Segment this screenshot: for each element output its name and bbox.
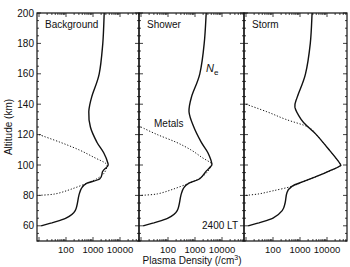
y-tick-label: 160 — [17, 68, 34, 79]
x-axis-label: Plasma Density (/cm3) — [143, 254, 242, 266]
panel-title: Shower — [147, 19, 182, 30]
panel-frame — [37, 13, 139, 241]
panel-title: Storm — [252, 19, 279, 30]
panel-storm: 100100010000Storm — [244, 13, 347, 255]
x-tick-label: 10000 — [209, 244, 235, 255]
panel-shower: 100100010000Shower — [139, 13, 244, 255]
chart-panels: 100100010000Background100100010000Shower… — [37, 13, 347, 255]
ne-curve — [41, 13, 108, 226]
x-tick-label: 1000 — [184, 244, 205, 255]
panel-title: Background — [45, 19, 98, 30]
x-tick-label: 1000 — [289, 244, 310, 255]
ne-curve — [248, 13, 341, 226]
x-tick-label: 100 — [160, 244, 176, 255]
x-tick-label: 100 — [58, 244, 74, 255]
y-axis-label: Altitude (km) — [3, 99, 14, 155]
y-tick-label: 120 — [17, 129, 34, 140]
x-tick-label: 10000 — [314, 244, 340, 255]
y-axis: 6080100120140160180200 — [17, 8, 34, 232]
metals-curve — [246, 104, 341, 195]
panel-frame — [244, 13, 347, 241]
y-tick-label: 180 — [17, 38, 34, 49]
y-tick-label: 140 — [17, 99, 34, 110]
x-tick-label: 100 — [265, 244, 281, 255]
ne-label: Ne — [206, 62, 219, 77]
y-tick-label: 200 — [17, 8, 34, 19]
y-tick-label: 80 — [23, 190, 35, 201]
plasma-density-chart: 100100010000Background100100010000Shower… — [0, 0, 350, 267]
metals-label: Metals — [154, 118, 183, 129]
local-time-label: 2400 LT — [202, 220, 238, 231]
y-tick-label: 60 — [23, 220, 35, 231]
panel-background: 100100010000Background — [37, 13, 139, 255]
metals-curve — [141, 127, 212, 195]
x-tick-label: 10000 — [107, 244, 133, 255]
y-tick-label: 100 — [17, 160, 34, 171]
x-tick-label: 1000 — [82, 244, 103, 255]
